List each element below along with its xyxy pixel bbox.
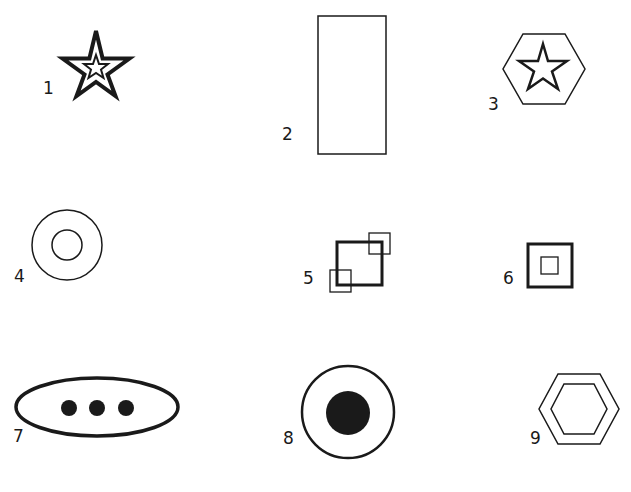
figure-label-4: 4 [14,268,25,285]
square-in-square-icon [528,244,572,287]
star-in-star-icon [63,31,130,96]
figure-label-1: 1 [43,80,54,97]
circle-with-filled-center-icon [302,366,394,458]
hexagon-in-hexagon-icon [539,374,619,444]
figure-label-8: 8 [283,430,294,447]
concentric-circles-icon [32,210,102,280]
figure-label-9: 9 [530,430,541,447]
figure-label-6: 6 [503,270,514,287]
figure-label-3: 3 [488,96,499,113]
figure-label-7: 7 [13,428,24,445]
ellipse-with-dots-icon [16,378,178,436]
figure-label-5: 5 [303,270,314,287]
square-with-corner-squares-icon [330,233,390,292]
star-in-hexagon-icon [503,34,585,104]
figure-label-2: 2 [282,126,293,143]
shapes-figure [0,0,631,492]
rectangle-icon [318,16,386,154]
